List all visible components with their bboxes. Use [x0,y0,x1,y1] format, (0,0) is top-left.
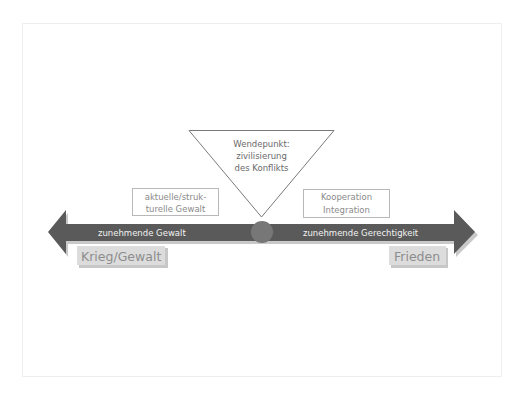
cooperation-line-2: Integration [323,205,370,215]
cooperation-line-1: Kooperation [321,192,372,202]
axis-label-left: zunehmende Gewalt [98,228,186,238]
turning-point-line-3: des Konflikts [235,163,289,173]
turning-point-line-2: zivilisierung [236,151,287,161]
conflict-continuum-diagram: Krieg/Gewalt Frieden zunehmende Gewalt z… [0,0,523,399]
axis-label-right: zunehmende Gerechtigkeit [303,228,419,238]
structural-violence-line-1: aktuelle/struk- [145,192,207,202]
turning-point-marker [251,221,273,243]
pole-left-label: Krieg/Gewalt [81,249,161,264]
turning-point-line-1: Wendepunkt: [233,139,289,149]
pole-right-label: Frieden [394,249,440,264]
structural-violence-line-2: turelle Gewalt [146,204,206,214]
